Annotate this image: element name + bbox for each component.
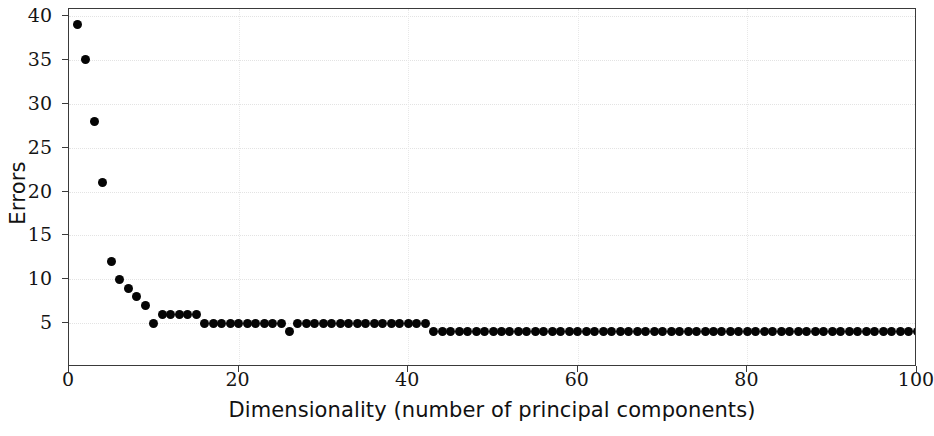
y-axis-tick-mark [62, 278, 68, 279]
data-point-marker [913, 327, 917, 336]
data-point-marker [124, 284, 133, 293]
x-axis-tick-labels: 020406080100 [0, 366, 932, 396]
data-point-marker [395, 319, 404, 328]
y-axis-label: Errors [0, 0, 36, 386]
data-point-marker [692, 327, 701, 336]
data-point-marker [751, 327, 760, 336]
data-point-marker [421, 319, 430, 328]
data-point-marker [277, 319, 286, 328]
gridline-horizontal [69, 16, 915, 17]
data-point-marker [81, 55, 90, 64]
data-point-marker [853, 327, 862, 336]
gridline-vertical [239, 9, 240, 365]
y-axis-tick-mark [62, 234, 68, 235]
y-axis-tick-label: 5 [40, 311, 52, 333]
data-point-marker [90, 117, 99, 126]
gridline-horizontal [69, 323, 915, 324]
data-point-marker [573, 327, 582, 336]
data-point-marker [73, 20, 82, 29]
y-axis-tick-label: 25 [28, 136, 52, 158]
data-point-marker [904, 327, 913, 336]
x-axis-label: Dimensionality (number of principal comp… [68, 398, 916, 422]
data-point-marker [234, 319, 243, 328]
plot-area [68, 8, 916, 366]
y-axis-tick-label: 15 [28, 223, 52, 245]
data-point-marker [217, 319, 226, 328]
data-point-marker [115, 275, 124, 284]
data-point-marker [887, 327, 896, 336]
data-point-marker [378, 319, 387, 328]
x-axis-tick-mark [577, 366, 578, 372]
data-point-marker [361, 319, 370, 328]
data-point-marker [768, 327, 777, 336]
data-point-marker [183, 310, 192, 319]
y-axis-tick-mark [62, 147, 68, 148]
gridline-horizontal [69, 148, 915, 149]
data-point-marker [192, 310, 201, 319]
y-axis-tick-mark [62, 59, 68, 60]
y-axis-label-text: Errors [6, 161, 30, 224]
data-point-marker [149, 319, 158, 328]
data-point-marker [590, 327, 599, 336]
data-point-marker [132, 292, 141, 301]
data-point-marker [785, 327, 794, 336]
data-point-marker [446, 327, 455, 336]
data-point-marker [556, 327, 565, 336]
y-axis-tick-label: 40 [28, 4, 52, 26]
x-axis-tick-mark [238, 366, 239, 372]
data-point-marker [641, 327, 650, 336]
gridline-horizontal [69, 60, 915, 61]
x-axis-tick-mark [68, 366, 69, 372]
data-point-marker [344, 319, 353, 328]
data-point-marker [463, 327, 472, 336]
data-point-marker [285, 327, 294, 336]
gridline-vertical [408, 9, 409, 365]
gridline-horizontal [69, 192, 915, 193]
y-axis-tick-label: 30 [28, 92, 52, 114]
data-point-marker [412, 319, 421, 328]
y-axis-tick-mark [62, 103, 68, 104]
data-point-marker [836, 327, 845, 336]
y-axis-tick-label: 20 [28, 180, 52, 202]
y-axis-tick-mark [62, 322, 68, 323]
x-axis-tick-mark [746, 366, 747, 372]
gridline-horizontal [69, 279, 915, 280]
y-axis-tick-labels: 510152025303540 [0, 0, 62, 386]
x-axis-tick-mark [916, 366, 917, 372]
data-point-marker [819, 327, 828, 336]
data-point-marker [607, 327, 616, 336]
y-axis-tick-label: 35 [28, 48, 52, 70]
data-point-marker [802, 327, 811, 336]
data-point-marker [98, 178, 107, 187]
gridline-vertical [747, 9, 748, 365]
x-axis-tick-mark [407, 366, 408, 372]
data-point-marker [539, 327, 548, 336]
data-point-marker [200, 319, 209, 328]
data-point-marker [675, 327, 684, 336]
gridline-vertical [578, 9, 579, 365]
data-point-marker [480, 327, 489, 336]
data-point-marker [251, 319, 260, 328]
y-axis-tick-mark [62, 191, 68, 192]
data-point-marker [141, 301, 150, 310]
data-point-marker [429, 327, 438, 336]
y-axis-tick-mark [62, 15, 68, 16]
data-point-marker [624, 327, 633, 336]
data-point-marker [107, 257, 116, 266]
y-axis-tick-label: 10 [28, 267, 52, 289]
gridline-horizontal [69, 235, 915, 236]
data-point-marker [658, 327, 667, 336]
data-point-marker [870, 327, 879, 336]
data-point-marker [166, 310, 175, 319]
data-point-marker [268, 319, 277, 328]
gridline-horizontal [69, 104, 915, 105]
